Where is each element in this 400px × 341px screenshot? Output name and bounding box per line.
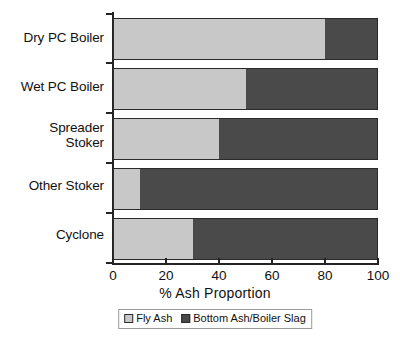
bar-segment-bottom-ash	[246, 68, 379, 110]
category-label-dry-pc-boiler: Dry PC Boiler	[0, 30, 104, 45]
plot-area	[113, 14, 378, 262]
legend-swatch-icon	[124, 314, 133, 323]
x-axis-tick-label: 0	[93, 268, 133, 284]
bar-segment-bottom-ash	[193, 218, 379, 260]
x-axis-tick-label: 60	[252, 268, 292, 284]
chart-legend: Fly Ash Bottom Ash/Boiler Slag	[118, 309, 312, 329]
y-axis-tick	[106, 13, 113, 15]
legend-swatch-icon	[181, 314, 190, 323]
bar-segment-fly-ash	[113, 118, 219, 160]
bar-row	[113, 18, 378, 60]
category-label-wet-pc-boiler: Wet PC Boiler	[0, 79, 104, 94]
bar-segment-bottom-ash	[140, 168, 379, 210]
x-axis-tick	[218, 258, 220, 265]
bar-row	[113, 218, 378, 260]
y-axis-tick	[106, 62, 113, 64]
x-axis-tick-label: 20	[146, 268, 186, 284]
legend-item-fly-ash: Fly Ash	[124, 312, 172, 325]
bar-row	[113, 68, 378, 110]
x-axis-title: % Ash Proportion	[0, 285, 400, 301]
bar-segment-fly-ash	[113, 218, 193, 260]
y-axis-tick	[106, 212, 113, 214]
category-label-cyclone: Cyclone	[0, 227, 104, 242]
legend-item-bottom-ash: Bottom Ash/Boiler Slag	[181, 312, 306, 325]
category-label-other-stoker: Other Stoker	[0, 178, 104, 193]
category-label-line1: Other Stoker	[0, 178, 104, 193]
x-axis-tick-label: 100	[358, 268, 398, 284]
x-axis-line	[112, 263, 379, 265]
x-axis-tick	[112, 258, 114, 265]
category-label-line2: Stoker	[0, 135, 104, 150]
stacked-bar-chart: Dry PC Boiler Wet PC Boiler Spreader Sto…	[0, 0, 400, 341]
category-label-line1: Dry PC Boiler	[0, 30, 104, 45]
bar-segment-fly-ash	[113, 168, 140, 210]
x-axis-tick	[377, 258, 379, 265]
bar-segment-fly-ash	[113, 68, 246, 110]
category-label-spreader-stoker: Spreader Stoker	[0, 120, 104, 150]
bar-row	[113, 168, 378, 210]
legend-label: Bottom Ash/Boiler Slag	[193, 312, 306, 325]
legend-label: Fly Ash	[136, 312, 172, 325]
bar-segment-bottom-ash	[219, 118, 378, 160]
y-axis-tick	[106, 162, 113, 164]
x-axis-tick-label: 40	[199, 268, 239, 284]
y-axis-tick	[106, 112, 113, 114]
category-label-line1: Cyclone	[0, 227, 104, 242]
x-axis-tick	[324, 258, 326, 265]
x-axis-tick	[165, 258, 167, 265]
bar-segment-fly-ash	[113, 18, 325, 60]
x-axis-tick	[271, 258, 273, 265]
x-axis-tick-label: 80	[305, 268, 345, 284]
category-label-line1: Wet PC Boiler	[0, 79, 104, 94]
bar-row	[113, 118, 378, 160]
bar-segment-bottom-ash	[325, 18, 378, 60]
category-label-line1: Spreader	[0, 120, 104, 135]
